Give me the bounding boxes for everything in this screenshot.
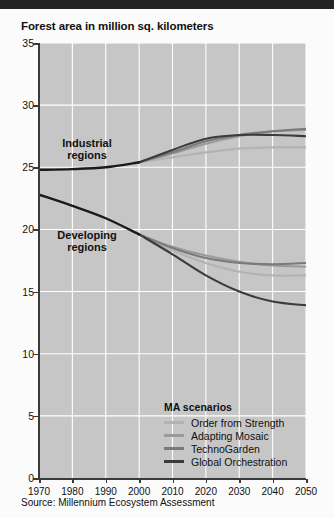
y-tick-label: 5	[8, 411, 34, 421]
legend-color-swatch	[164, 460, 184, 463]
annotation-industrial-line2: regions	[44, 149, 130, 161]
annotation-developing-line2: regions	[42, 241, 132, 253]
y-tick-label: 15	[8, 287, 34, 297]
annotation-developing-line1: Developing	[42, 229, 132, 241]
legend-title: MA scenarios	[164, 401, 304, 413]
y-tick-label: 10	[8, 349, 34, 359]
x-tick-mark	[106, 479, 108, 483]
annotation-industrial-line1: Industrial	[44, 137, 130, 149]
annotation-developing-regions: Developing regions	[42, 229, 132, 253]
y-tick-mark	[33, 354, 38, 356]
x-tick-mark	[206, 479, 208, 483]
y-tick-mark	[33, 43, 38, 45]
series-line	[139, 234, 306, 275]
top-black-bar	[0, 0, 334, 9]
y-tick-label: 0	[8, 473, 34, 483]
y-tick-mark	[33, 167, 38, 169]
y-tick-mark	[33, 105, 38, 107]
legend-items: Order from StrengthAdapting MosaicTechno…	[164, 416, 304, 468]
y-tick-label: 20	[8, 224, 34, 234]
y-tick-label: 25	[8, 162, 34, 172]
chart-figure: Forest area in million sq. kilometers 05…	[0, 9, 334, 518]
legend-color-swatch	[164, 447, 184, 450]
legend-item-label: Order from Strength	[191, 417, 284, 429]
legend: MA scenarios Order from StrengthAdapting…	[164, 401, 304, 468]
series-line	[39, 162, 139, 169]
legend-item: TechnoGarden	[164, 442, 304, 455]
y-tick-label: 30	[8, 100, 34, 110]
x-tick-mark	[39, 479, 41, 483]
legend-color-swatch	[164, 421, 184, 424]
y-tick-label: 35	[8, 38, 34, 48]
legend-item-label: Adapting Mosaic	[191, 430, 269, 442]
x-tick-mark	[239, 479, 241, 483]
chart-title: Forest area in million sq. kilometers	[21, 20, 214, 32]
y-tick-mark	[33, 416, 38, 418]
x-tick-mark	[306, 479, 308, 483]
y-tick-mark	[33, 292, 38, 294]
y-tick-mark	[33, 478, 38, 480]
legend-item-label: TechnoGarden	[191, 443, 260, 455]
legend-item: Adapting Mosaic	[164, 429, 304, 442]
x-tick-mark	[273, 479, 275, 483]
y-axis-line	[38, 43, 40, 479]
y-axis-labels: 05101520253035	[4, 9, 34, 518]
annotation-industrial-regions: Industrial regions	[44, 137, 130, 161]
legend-item-label: Global Orchestration	[191, 456, 287, 468]
legend-color-swatch	[164, 434, 184, 437]
y-tick-mark	[33, 229, 38, 231]
x-tick-mark	[139, 479, 141, 483]
legend-item: Global Orchestration	[164, 455, 304, 468]
legend-item: Order from Strength	[164, 416, 304, 429]
source-note: Source: Millennium Ecosystem Assessment	[21, 497, 214, 508]
x-tick-label: 2050	[286, 486, 326, 497]
series-line	[139, 129, 306, 163]
x-tick-mark	[72, 479, 74, 483]
x-tick-mark	[173, 479, 175, 483]
